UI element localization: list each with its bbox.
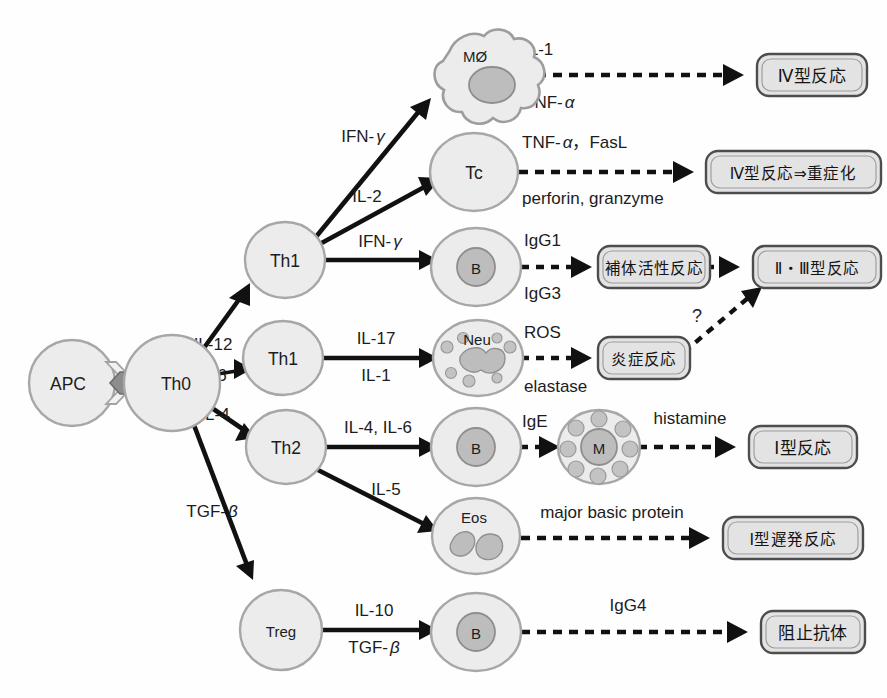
edge-label-il17: IL-17 <box>357 329 396 348</box>
edge-label-histamine: histamine <box>654 409 727 428</box>
edge-label-igg4: IgG4 <box>610 596 647 615</box>
cell-mast[interactable]: M <box>558 410 640 484</box>
cell-apc[interactable]: APC <box>29 340 115 426</box>
cell-label-th1-lower: Th1 <box>268 349 298 369</box>
cell-b-igg4[interactable]: B <box>431 593 521 671</box>
edge-label-question-mark: ? <box>692 306 702 326</box>
cell-label-b-igg: B <box>471 260 481 277</box>
outcome-label-type1: Ⅰ型反応 <box>774 439 832 458</box>
outcome-box-blocking-antibody[interactable]: 阻止抗体 <box>761 611 865 653</box>
outcome-box-complement[interactable]: 補体活性反応 <box>598 246 710 288</box>
cell-eosinophil[interactable]: Eos <box>432 498 520 574</box>
outcome-box-type4-severe[interactable]: Ⅳ型反応⇒重症化 <box>706 151 881 193</box>
cell-label-th1-upper: Th1 <box>270 251 300 271</box>
edge-label-tnfalpha-fasl: TNF-α，FasL <box>522 133 627 152</box>
immunology-pathway-diagram: IL-12 IL-6 IL-4 TGF-β IFN-γ IL-2 IFN-γ <box>0 0 887 698</box>
edge-label-elastase: elastase <box>524 377 587 396</box>
edge-label-ige: IgE <box>522 412 548 431</box>
cell-b-igg[interactable]: B <box>431 228 521 306</box>
cell-label-neutrophil: Neu <box>463 331 491 348</box>
edge-label-igg3: IgG3 <box>524 284 561 303</box>
cell-neutrophil[interactable]: Neu <box>433 320 523 396</box>
outcome-box-type1[interactable]: Ⅰ型反応 <box>749 426 857 468</box>
outcome-label-type4-severe: Ⅳ型反応⇒重症化 <box>730 165 857 182</box>
diagram-canvas: IL-12 IL-6 IL-4 TGF-β IFN-γ IL-2 IFN-γ <box>0 0 887 698</box>
outcome-label-inflammation: 炎症反応 <box>611 351 677 368</box>
cell-label-th0: Th0 <box>161 374 191 394</box>
cell-label-b-ige: B <box>471 440 481 457</box>
cell-label-treg: Treg <box>266 623 296 640</box>
edge-label-il4-il6: IL-4, IL-6 <box>344 418 412 437</box>
cell-tc[interactable]: Tc <box>430 133 518 211</box>
edge-label-il5: IL-5 <box>371 480 400 499</box>
cell-label-macrophage: MØ <box>463 48 487 65</box>
outcome-box-type1-delayed[interactable]: Ⅰ型遅発反応 <box>723 517 863 559</box>
outcome-label-type1-delayed: Ⅰ型遅発反応 <box>750 531 837 548</box>
cell-th1-lower[interactable]: Th1 <box>243 321 323 395</box>
outcome-box-type4[interactable]: Ⅳ型反応 <box>757 54 867 96</box>
edge-label-ifngamma-macrophage: IFN-γ <box>341 127 386 146</box>
outcome-box-inflammation[interactable]: 炎症反応 <box>598 337 690 379</box>
outcome-label-complement: 補体活性反応 <box>605 260 703 277</box>
edge-label-perforin-granzyme: perforin, granzyme <box>522 189 664 208</box>
outcome-label-blocking-antibody: 阻止抗体 <box>778 624 848 643</box>
cell-th2[interactable]: Th2 <box>246 410 326 484</box>
cell-label-b-igg4: B <box>471 625 481 642</box>
cell-treg[interactable]: Treg <box>240 590 322 670</box>
edge-label-tgfbeta-treg: TGF-β <box>186 502 238 521</box>
cell-label-mast: M <box>593 440 606 457</box>
cell-label-tc: Tc <box>465 163 483 183</box>
edge-label-il1-neu: IL-1 <box>361 366 390 385</box>
edge-label-ifngamma-bcell: IFN-γ <box>358 232 403 251</box>
outcome-label-type23: Ⅱ・Ⅲ型反応 <box>775 260 860 277</box>
outcome-box-type23[interactable]: Ⅱ・Ⅲ型反応 <box>753 246 881 288</box>
cell-label-th2: Th2 <box>271 438 301 458</box>
cell-label-eosinophil: Eos <box>461 509 487 526</box>
outcome-label-type4: Ⅳ型反応 <box>778 67 846 86</box>
edge-label-igg1: IgG1 <box>524 231 561 250</box>
edge-label-major-basic-protein: major basic protein <box>540 503 684 522</box>
edge-label-il10: IL-10 <box>355 601 394 620</box>
edge-label-tgfbeta-treg-b: TGF-β <box>348 638 400 657</box>
cell-th1-upper[interactable]: Th1 <box>245 222 325 298</box>
edge-label-il2: IL-2 <box>352 187 381 206</box>
edge-label-ros: ROS <box>524 323 561 342</box>
cell-th0[interactable]: Th0 <box>124 335 220 431</box>
cell-b-ige[interactable]: B <box>431 408 521 486</box>
cell-label-apc: APC <box>50 374 86 394</box>
